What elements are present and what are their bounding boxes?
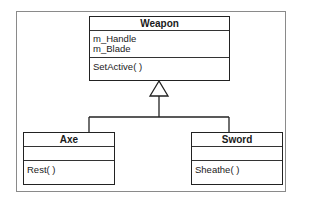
attributes-section: m_Handle m_Blade [90, 31, 229, 58]
methods-section: Sheathe( ) [192, 161, 282, 183]
class-weapon: Weapon m_Handle m_Blade SetActive( ) [89, 16, 230, 81]
class-name: Weapon [90, 17, 229, 31]
class-name: Sword [192, 133, 282, 147]
attribute: m_Blade [93, 44, 229, 54]
method: SetActive( ) [93, 62, 229, 72]
class-sword: Sword Sheathe( ) [191, 132, 283, 185]
method: Sheathe( ) [195, 165, 282, 175]
attributes-section [24, 147, 114, 161]
method: Rest( ) [27, 165, 114, 175]
generalization-triangle-icon [150, 81, 168, 96]
class-name: Axe [24, 133, 114, 147]
class-axe: Axe Rest( ) [23, 132, 115, 185]
methods-section: Rest( ) [24, 161, 114, 183]
attributes-section [192, 147, 282, 161]
methods-section: SetActive( ) [90, 58, 229, 79]
